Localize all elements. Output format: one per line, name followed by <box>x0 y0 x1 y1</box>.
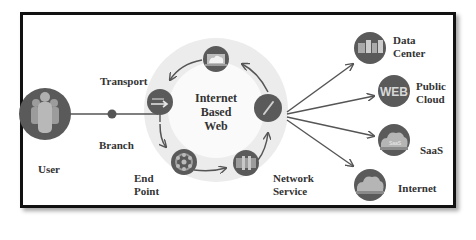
label-end-point-line-1: End <box>134 172 159 185</box>
label-branch: Branch <box>99 139 134 152</box>
label-network-service: Network Service <box>273 172 314 198</box>
label-end-point: End Point <box>134 172 159 198</box>
label-public-cloud-line-2: Cloud <box>416 93 446 106</box>
center-label-line-2: Based <box>186 105 246 119</box>
label-network-service-line-1: Network <box>273 172 314 185</box>
network-service-icon[interactable] <box>233 150 259 176</box>
svg-text:WEB: WEB <box>380 85 408 99</box>
users-group-icon <box>19 88 71 140</box>
center-label-line-1: Internet <box>186 91 246 105</box>
center-label-line-3: Web <box>186 119 246 133</box>
branch-dot-icon <box>108 110 117 119</box>
svg-text:SaaS: SaaS <box>389 140 402 146</box>
label-data-center: Data Center <box>393 34 425 60</box>
saas-cloud-icon[interactable]: SaaS <box>378 124 410 156</box>
label-data-center-line-1: Data <box>393 34 425 47</box>
label-user: User <box>38 163 60 176</box>
label-saas: SaaS <box>420 144 443 157</box>
label-public-cloud: Public Cloud <box>416 80 446 106</box>
transport-arrows-icon[interactable] <box>147 89 173 115</box>
gauge-icon[interactable] <box>254 94 282 122</box>
label-end-point-line-2: Point <box>134 185 159 198</box>
label-transport: Transport <box>100 75 147 88</box>
label-data-center-line-2: Center <box>393 47 425 60</box>
cloud-screen-icon <box>203 46 229 72</box>
internet-cloud-icon[interactable] <box>354 169 386 201</box>
hub-network-icon[interactable] <box>171 149 197 175</box>
label-network-service-line-2: Service <box>273 185 314 198</box>
label-internet: Internet <box>398 182 437 195</box>
center-label: Internet Based Web <box>186 91 246 133</box>
fanout-arrows <box>287 64 374 166</box>
web-icon[interactable]: WEB <box>378 75 410 107</box>
data-center-icon[interactable] <box>354 32 386 64</box>
label-public-cloud-line-1: Public <box>416 80 446 93</box>
